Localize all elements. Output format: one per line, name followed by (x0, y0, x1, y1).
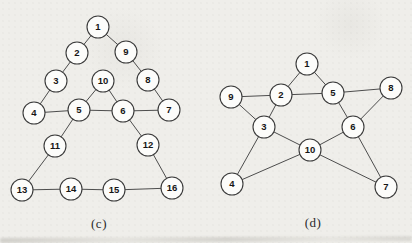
graph-c-node-label-4: 4 (31, 107, 37, 118)
graph-d-node-3: 3 (253, 116, 275, 138)
graph-d-node-8: 8 (380, 77, 402, 99)
graph-c-node-3: 3 (45, 70, 67, 92)
graph-c-node-label-7: 7 (166, 104, 171, 115)
graph-c-node-4: 4 (23, 102, 45, 124)
graph-d-edge-10-7 (310, 150, 386, 187)
graph-d-edge-4-10 (232, 150, 310, 184)
graph-c-node-11: 11 (44, 135, 66, 157)
graph-d-node-6: 6 (342, 116, 364, 138)
graph-c-node-label-15: 15 (109, 184, 120, 195)
graph-c-node-8: 8 (137, 69, 159, 91)
graph-c-node-5: 5 (68, 99, 90, 121)
graphs-canvas: 1234567891011121314151612345678910 (0, 0, 412, 243)
graph-d-node-label-3: 3 (261, 121, 266, 132)
graph-c-node-label-11: 11 (50, 140, 61, 151)
graph-c-node-2: 2 (66, 42, 88, 64)
graph-c-node-label-13: 13 (17, 184, 28, 195)
graph-d-node-5: 5 (322, 82, 344, 104)
graph-d-node-label-2: 2 (278, 89, 283, 100)
graph-d-node-label-8: 8 (388, 82, 393, 93)
graph-c-node-label-1: 1 (95, 21, 101, 32)
graph-d-node-4: 4 (221, 173, 243, 195)
graph-d-node-label-9: 9 (228, 91, 233, 102)
graph-c-node-6: 6 (112, 100, 134, 122)
graph-d-node-label-4: 4 (229, 178, 235, 189)
graph-d-node-label-5: 5 (330, 87, 336, 98)
graph-d-node-2: 2 (270, 84, 292, 106)
graph-c-node-label-5: 5 (76, 104, 82, 115)
graph-c-node-16: 16 (161, 177, 183, 199)
graph-c-node-label-8: 8 (145, 74, 150, 85)
figure-caption-c: (c) (91, 216, 107, 232)
graph-d-node-9: 9 (220, 86, 242, 108)
graph-c-node-7: 7 (158, 99, 180, 121)
graph-d-node-1: 1 (296, 53, 318, 75)
graph-d-node-label-1: 1 (304, 58, 310, 69)
graph-c-node-label-6: 6 (120, 105, 125, 116)
graph-c-node-9: 9 (115, 41, 137, 63)
graph-d-node-label-6: 6 (350, 121, 355, 132)
graph-c-node-14: 14 (60, 178, 82, 200)
graph-c-node-label-12: 12 (143, 139, 154, 150)
graph-d-node-10: 10 (299, 139, 321, 161)
graph-c-node-label-14: 14 (66, 183, 77, 194)
graph-c-node-1: 1 (87, 16, 109, 38)
figure-caption-d: (d) (305, 215, 322, 231)
graph-c-node-label-3: 3 (53, 75, 58, 86)
graph-c-node-10: 10 (92, 70, 114, 92)
scanned-figure-page: 1234567891011121314151612345678910 (c) (… (0, 0, 412, 243)
graph-c-node-13: 13 (11, 179, 33, 201)
graph-c-node-label-16: 16 (167, 182, 178, 193)
graph-d-node-label-10: 10 (305, 144, 316, 155)
graph-c-node-label-2: 2 (74, 47, 79, 58)
graph-c-node-15: 15 (103, 179, 125, 201)
graph-c-node-label-9: 9 (123, 46, 128, 57)
graph-c-node-12: 12 (137, 134, 159, 156)
graph-c-node-label-10: 10 (98, 75, 109, 86)
graph-d-node-label-7: 7 (383, 181, 388, 192)
graph-d-node-7: 7 (375, 176, 397, 198)
